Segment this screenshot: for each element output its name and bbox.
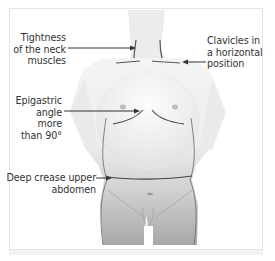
label-neck-muscles: Tightness of the neck muscles <box>10 32 66 67</box>
label-abdominal-crease: Deep crease upper abdomen <box>4 172 96 195</box>
label-epigastric-angle: Epigastric angle more than 90° <box>10 95 62 141</box>
pointer-neck <box>68 46 136 51</box>
label-clavicles: Clavicles in a horizontal position <box>207 35 267 70</box>
